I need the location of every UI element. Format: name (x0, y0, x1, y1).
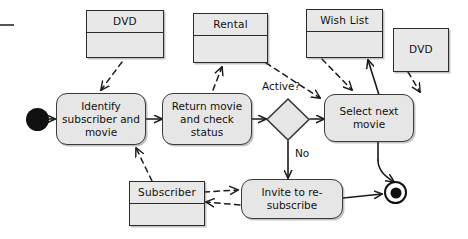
action-node-invite-resubscribe[interactable]: Invite to re-subscribe (241, 179, 343, 219)
edge-label-active: Active? (262, 80, 300, 92)
action-node-label: Invite to re-subscribe (246, 186, 338, 212)
object-node-title: Subscriber (130, 182, 204, 204)
initial-node (26, 108, 49, 131)
action-node-label: Select next movie (329, 105, 409, 131)
action-node-select-next-movie[interactable]: Select next movie (324, 94, 414, 142)
object-node-title: DVD (394, 29, 448, 71)
decision-node-active[interactable] (265, 97, 311, 142)
object-node-rental[interactable]: Rental (193, 13, 268, 63)
object-node-subscriber[interactable]: Subscriber (129, 181, 205, 226)
object-node-body (194, 36, 267, 62)
activity-final-node (384, 181, 407, 204)
activity-diagram-canvas: DVD Rental Wish List DVD Subscriber Iden… (0, 0, 468, 239)
object-node-wish-list[interactable]: Wish List (306, 9, 383, 58)
action-node-label: Return movie and check status (167, 100, 247, 139)
object-node-body (87, 33, 163, 57)
object-node-body (307, 32, 382, 57)
object-node-dvd-left[interactable]: DVD (86, 10, 164, 58)
final-node-inner-dot (390, 187, 401, 198)
decision-diamond-shape (265, 97, 311, 142)
action-node-return-movie[interactable]: Return movie and check status (162, 93, 252, 145)
action-node-identify[interactable]: Identify subscriber and movie (56, 93, 146, 145)
object-node-title: Wish List (307, 10, 382, 32)
action-node-label: Identify subscriber and movie (61, 100, 141, 139)
edge-label-no: No (295, 147, 309, 159)
object-node-title: Rental (194, 14, 267, 36)
object-node-body (130, 204, 204, 225)
object-node-dvd-right[interactable]: DVD (393, 28, 449, 72)
object-node-title: DVD (87, 11, 163, 33)
